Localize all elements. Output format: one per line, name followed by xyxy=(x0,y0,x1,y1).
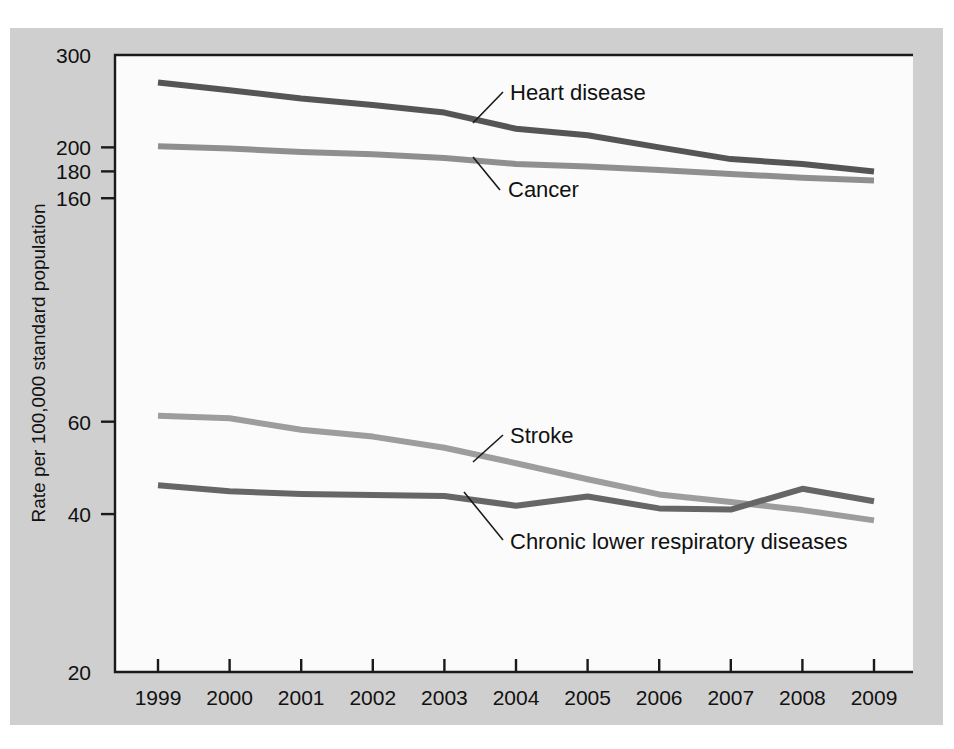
x-tick-label-2005: 2005 xyxy=(564,686,611,709)
y-axis-title: Rate per 100,000 standard population xyxy=(28,203,49,522)
x-axis-tick-labels: 1999200020012002200320042005200620072008… xyxy=(135,686,898,709)
series-label-stroke: Stroke xyxy=(510,423,574,448)
y-tick-label-40: 40 xyxy=(68,503,91,526)
x-tick-label-2008: 2008 xyxy=(779,686,826,709)
x-tick-label-2006: 2006 xyxy=(636,686,683,709)
x-tick-label-1999: 1999 xyxy=(135,686,182,709)
y-axis-ticks xyxy=(101,147,115,514)
x-tick-label-2004: 2004 xyxy=(493,686,540,709)
y-axis-tick-labels: 300200180160604020 xyxy=(56,44,91,684)
series-label-clrd: Chronic lower respiratory diseases xyxy=(510,529,847,554)
x-tick-label-2003: 2003 xyxy=(421,686,468,709)
y-tick-label-180: 180 xyxy=(56,160,91,183)
x-tick-label-2002: 2002 xyxy=(349,686,396,709)
y-tick-label-300: 300 xyxy=(56,44,91,67)
y-tick-label-60: 60 xyxy=(68,411,91,434)
y-tick-label-160: 160 xyxy=(56,187,91,210)
line-chart: 300200180160604020 199920002001200220032… xyxy=(0,0,954,749)
series-label-cancer: Cancer xyxy=(508,177,579,202)
y-tick-label-200: 200 xyxy=(56,136,91,159)
x-tick-label-2000: 2000 xyxy=(206,686,253,709)
figure-container: 300200180160604020 199920002001200220032… xyxy=(0,0,954,749)
x-tick-label-2007: 2007 xyxy=(707,686,754,709)
x-tick-label-2009: 2009 xyxy=(851,686,898,709)
x-tick-label-2001: 2001 xyxy=(278,686,325,709)
y-tick-label-20: 20 xyxy=(68,661,91,684)
series-label-heart-disease: Heart disease xyxy=(510,80,646,105)
